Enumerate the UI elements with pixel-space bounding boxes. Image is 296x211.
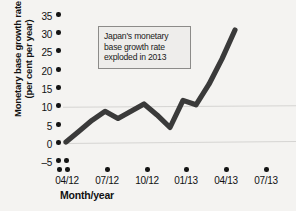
x-tick-label: 07/13 bbox=[245, 175, 287, 186]
y-tick-label: 0 bbox=[26, 140, 52, 150]
y-tick-label: –5 bbox=[26, 158, 52, 168]
x-tick-dot bbox=[57, 167, 62, 172]
y-tick-label: 35 bbox=[26, 12, 52, 22]
y-tick-dot bbox=[56, 12, 61, 17]
annotation-callout: Japan's monetary base growth rate explod… bbox=[98, 26, 191, 69]
y-tick-dot bbox=[56, 158, 61, 163]
x-tick-dot bbox=[184, 167, 189, 172]
y-tick-dot bbox=[56, 103, 61, 108]
x-tick-label: 04/13 bbox=[205, 175, 247, 186]
x-tick-dot bbox=[105, 167, 110, 172]
y-tick-dot bbox=[56, 122, 61, 127]
y-tick-label: 15 bbox=[26, 85, 52, 95]
y-tick-dot bbox=[56, 67, 61, 72]
y-tick-dot bbox=[56, 140, 61, 145]
x-tick-label: 01/13 bbox=[165, 175, 207, 186]
annotation-line3: exploded in 2013 bbox=[104, 52, 185, 63]
annotation-line2: base growth rate bbox=[104, 42, 185, 53]
x-tick-label: 10/12 bbox=[126, 175, 168, 186]
y-tick-dot bbox=[56, 48, 61, 53]
y-tick-label: 20 bbox=[26, 67, 52, 77]
y-tick-label: 5 bbox=[26, 122, 52, 132]
x-tick-dot bbox=[65, 167, 70, 172]
x-tick-dot bbox=[145, 167, 150, 172]
y-axis-label-line1: Monetary base growth rate bbox=[12, 0, 23, 144]
y-tick-label: 10 bbox=[26, 103, 52, 113]
chart-figure: Monetary base growth rate (per cent per … bbox=[0, 0, 296, 211]
y-tick-dot bbox=[56, 85, 61, 90]
y-tick-dot-origin bbox=[64, 158, 69, 163]
x-tick-dot bbox=[264, 167, 269, 172]
y-tick-label: 30 bbox=[26, 30, 52, 40]
x-tick-label: 07/12 bbox=[86, 175, 128, 186]
x-tick-label: 04/12 bbox=[46, 175, 88, 186]
x-tick-dot bbox=[224, 167, 229, 172]
y-tick-label: 25 bbox=[26, 48, 52, 58]
y-tick-dot bbox=[56, 30, 61, 35]
x-axis-label: Month/year bbox=[60, 189, 114, 201]
annotation-line1: Japan's monetary bbox=[104, 31, 185, 42]
